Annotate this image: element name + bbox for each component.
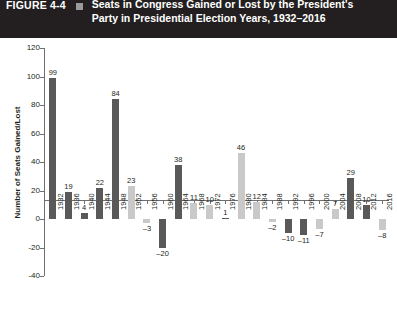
x-axis-tick-mark [272, 200, 273, 204]
bar-1988 [269, 219, 276, 222]
bar-1984 [253, 202, 260, 219]
y-axis-tick-label: 80 [10, 100, 40, 109]
x-axis-tick-label: 1944 [103, 193, 112, 210]
bar-value-label: 19 [56, 182, 82, 191]
bar-value-label: –20 [150, 249, 176, 258]
x-axis-tick-mark [147, 200, 148, 204]
bar-value-label: 10 [197, 195, 223, 204]
y-axis-tick-mark [40, 162, 44, 163]
bar-1976 [222, 218, 229, 220]
bar-1940 [81, 213, 88, 219]
y-axis-tick-label: -20 [10, 243, 40, 252]
bar-value-label: 84 [103, 89, 129, 98]
bar-1948 [112, 99, 119, 219]
y-axis-tick-label: 40 [10, 157, 40, 166]
bar-value-label: 1 [212, 208, 238, 217]
bar-value-label: 23 [118, 176, 144, 185]
chart-area: Number of Seats Gained/Lost -40-20020406… [0, 38, 397, 331]
bar-value-label: –2 [259, 223, 285, 232]
x-axis-tick-label: 1952 [134, 193, 143, 210]
x-axis-tick-label: 1948 [119, 193, 128, 210]
bar-1968 [190, 203, 197, 219]
bar-value-label: 46 [228, 143, 254, 152]
bar-1992 [285, 219, 292, 233]
bar-1960 [159, 219, 166, 248]
bar-value-label: 7 [322, 199, 348, 208]
bar-value-label: 10 [353, 195, 379, 204]
x-axis-tick-mark [382, 200, 383, 204]
figure-title: Seats in Congress Gained or Lost by the … [92, 0, 382, 25]
y-axis-tick-mark [40, 48, 44, 49]
bar-2012 [363, 205, 370, 219]
y-axis-tick-mark [40, 248, 44, 249]
x-axis-tick-label: 1996 [307, 193, 316, 210]
bar-1980 [238, 153, 245, 219]
x-axis-tick-mark [163, 200, 164, 204]
x-axis-tick-label: 1932 [56, 193, 65, 210]
bar-value-label: 38 [165, 155, 191, 164]
bar-value-label: 29 [338, 168, 364, 177]
x-axis-tick-mark [225, 200, 226, 204]
y-axis-tick-mark [40, 219, 44, 220]
x-axis-tick-mark [319, 200, 320, 204]
figure-header: FIGURE 4-4 Seats in Congress Gained or L… [0, 0, 397, 38]
bar-2016 [379, 219, 386, 230]
bar-1964 [175, 165, 182, 219]
y-axis-tick-label: 0 [10, 214, 40, 223]
bar-1956 [143, 219, 150, 223]
bar-value-label: –7 [306, 230, 332, 239]
square-bullet-icon [76, 3, 83, 10]
bar-value-label: –8 [369, 231, 395, 240]
bar-1932 [49, 78, 56, 219]
y-axis-tick-mark [40, 134, 44, 135]
y-axis-tick-label: -40 [10, 271, 40, 280]
x-axis-tick-label: 1956 [150, 193, 159, 210]
y-axis-tick-label: 20 [10, 186, 40, 195]
x-axis-tick-label: 2016 [385, 193, 394, 210]
y-axis-tick-mark [40, 105, 44, 106]
bar-2000 [316, 219, 323, 229]
x-axis-tick-mark [304, 200, 305, 204]
bar-value-label: 12 [244, 192, 270, 201]
bar-1952 [128, 186, 135, 219]
y-axis-line [44, 48, 45, 276]
x-axis-tick-label: 1992 [291, 193, 300, 210]
bar-value-label: –3 [134, 224, 160, 233]
plot-region: -40-200204060801001201932991936191940419… [44, 48, 389, 276]
y-axis-tick-label: 100 [10, 72, 40, 81]
y-axis-tick-mark [40, 276, 44, 277]
x-axis-tick-label: 1960 [166, 193, 175, 210]
x-axis-tick-mark [288, 200, 289, 204]
y-axis-tick-label: 120 [10, 43, 40, 52]
bar-2004 [332, 209, 339, 219]
figure-root: FIGURE 4-4 Seats in Congress Gained or L… [0, 0, 397, 331]
figure-number: FIGURE 4-4 [6, 0, 66, 11]
bar-value-label: 4 [71, 203, 97, 212]
y-axis-tick-label: 60 [10, 129, 40, 138]
x-axis-tick-label: 1988 [275, 193, 284, 210]
bar-value-label: 22 [87, 178, 113, 187]
bar-1944 [96, 188, 103, 219]
bar-value-label: 99 [40, 68, 66, 77]
y-axis-tick-mark [40, 191, 44, 192]
